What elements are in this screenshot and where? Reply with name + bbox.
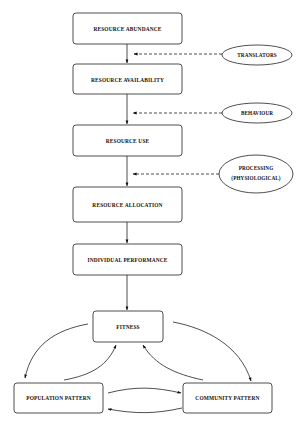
box-fitness: FITNESS xyxy=(93,311,163,342)
box-resource-availability: RESOURCE AVAILABILITY xyxy=(73,64,182,94)
box-resource-use: RESOURCE USE xyxy=(73,125,182,156)
label-processing: PROCESSING xyxy=(239,165,274,171)
flow-diagram: RESOURCE ABUNDANCE RESOURCE AVAILABILITY… xyxy=(0,0,306,434)
arrow-community-to-population xyxy=(108,408,182,413)
label-community-pattern: COMMUNITY PATTERN xyxy=(195,395,259,401)
label-resource-abundance: RESOURCE ABUNDANCE xyxy=(93,26,161,32)
label-resource-use: RESOURCE USE xyxy=(106,138,150,144)
box-individual-performance: INDIVIDUAL PERFORMANCE xyxy=(73,244,182,275)
label-population-pattern: POPULATION PATTERN xyxy=(26,395,91,401)
arrow-fitness-to-population xyxy=(25,324,88,378)
box-population-pattern: POPULATION PATTERN xyxy=(14,383,103,413)
arrow-population-to-fitness xyxy=(64,345,116,380)
label-behaviour: BEHAVIOUR xyxy=(241,110,273,116)
oval-behaviour: BEHAVIOUR xyxy=(222,103,292,123)
oval-processing: PROCESSING (PHYSIOLOGICAL) xyxy=(219,155,293,193)
arrow-fitness-to-community xyxy=(173,322,251,381)
box-resource-allocation: RESOURCE ALLOCATION xyxy=(73,187,182,222)
label-individual-performance: INDIVIDUAL PERFORMANCE xyxy=(87,257,167,263)
oval-translators: TRANSLATORS xyxy=(222,45,292,65)
label-resource-availability: RESOURCE AVAILABILITY xyxy=(91,77,164,83)
box-community-pattern: COMMUNITY PATTERN xyxy=(183,383,272,413)
label-resource-allocation: RESOURCE ALLOCATION xyxy=(92,202,162,208)
label-translators: TRANSLATORS xyxy=(237,52,277,58)
arrow-population-to-community xyxy=(108,388,181,393)
arrow-community-to-fitness xyxy=(143,345,203,380)
label-fitness: FITNESS xyxy=(116,324,140,330)
box-resource-abundance: RESOURCE ABUNDANCE xyxy=(73,13,182,44)
label-physiological: (PHYSIOLOGICAL) xyxy=(231,175,281,182)
